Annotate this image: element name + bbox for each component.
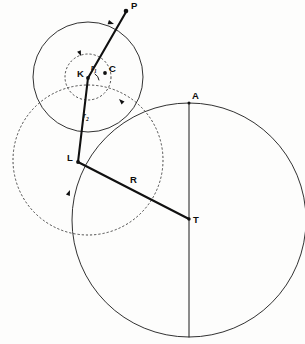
point-label-A: A <box>192 91 199 101</box>
point-L-dot <box>76 160 80 164</box>
segment-L-T <box>78 162 189 219</box>
point-K-dot <box>86 76 90 80</box>
point-label-C: C <box>109 64 116 74</box>
geometry-figure <box>0 0 305 344</box>
arrow-dashed-circle-ne <box>118 97 125 104</box>
point-label-K: K <box>77 69 84 79</box>
point-label-T: T <box>193 215 199 225</box>
arrow-dashed-circle-sw <box>66 189 72 196</box>
radius-label-r1: r1 <box>91 64 97 74</box>
radius-label-r2-index: 2 <box>86 116 89 122</box>
point-label-L: L <box>67 153 73 163</box>
radius-label-r2: r2 <box>83 112 89 122</box>
point-label-P: P <box>131 1 137 11</box>
point-A-dot <box>188 102 191 105</box>
large-dashed-circle <box>13 85 163 235</box>
point-T-dot <box>187 217 190 220</box>
radius-label-R: R <box>130 175 137 185</box>
angle-arc-at-K <box>95 74 99 80</box>
diagram-canvas: P C K L T A R r1 r2 <box>0 0 305 344</box>
arrow-upper-circle-top <box>108 20 115 26</box>
arrow-small-circle-top <box>77 50 83 57</box>
point-P-dot <box>124 9 129 14</box>
radius-label-r1-index: 1 <box>94 68 97 74</box>
point-C-dot <box>103 71 107 75</box>
